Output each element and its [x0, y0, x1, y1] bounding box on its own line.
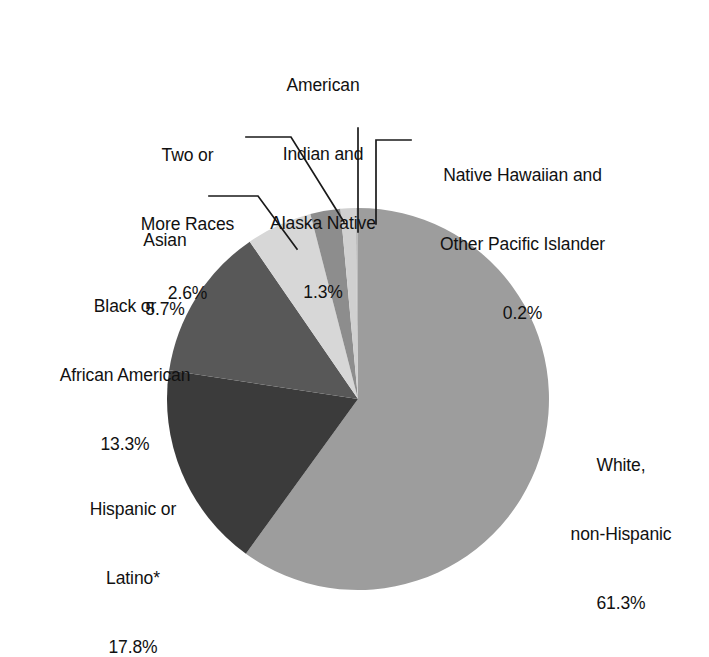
slice-label-value: 61.3%: [546, 592, 696, 615]
slice-label-value: 17.8%: [48, 636, 218, 657]
slice-label-line: African American: [30, 364, 220, 387]
slice-label-line: Black or: [30, 295, 220, 318]
slice-label-line: Hispanic or: [48, 498, 218, 521]
slice-label-line: Indian and: [248, 143, 398, 166]
slice-label-line: Native Hawaiian and: [415, 164, 630, 187]
slice-label-value: 1.3%: [248, 281, 398, 304]
slice-label-line: American: [248, 74, 398, 97]
slice-label-line: Latino*: [48, 567, 218, 590]
slice-label-white-non-hispanic: White, non-Hispanic 61.3%: [546, 408, 696, 657]
slice-label-line: Two or: [120, 144, 255, 167]
slice-label-value: 0.2%: [415, 302, 630, 325]
slice-label-line: White,: [546, 454, 696, 477]
slice-label-hispanic-or-latino: Hispanic or Latino* 17.8%: [48, 452, 218, 657]
slice-label-line: Other Pacific Islander: [415, 233, 630, 256]
slice-label-native-hawaiian-pacific-islander: Native Hawaiian and Other Pacific Island…: [415, 118, 630, 371]
slice-label-american-indian-alaska-native: American Indian and Alaska Native 1.3%: [248, 28, 398, 350]
slice-label-line: non-Hispanic: [546, 523, 696, 546]
slice-label-line: Alaska Native: [248, 212, 398, 235]
